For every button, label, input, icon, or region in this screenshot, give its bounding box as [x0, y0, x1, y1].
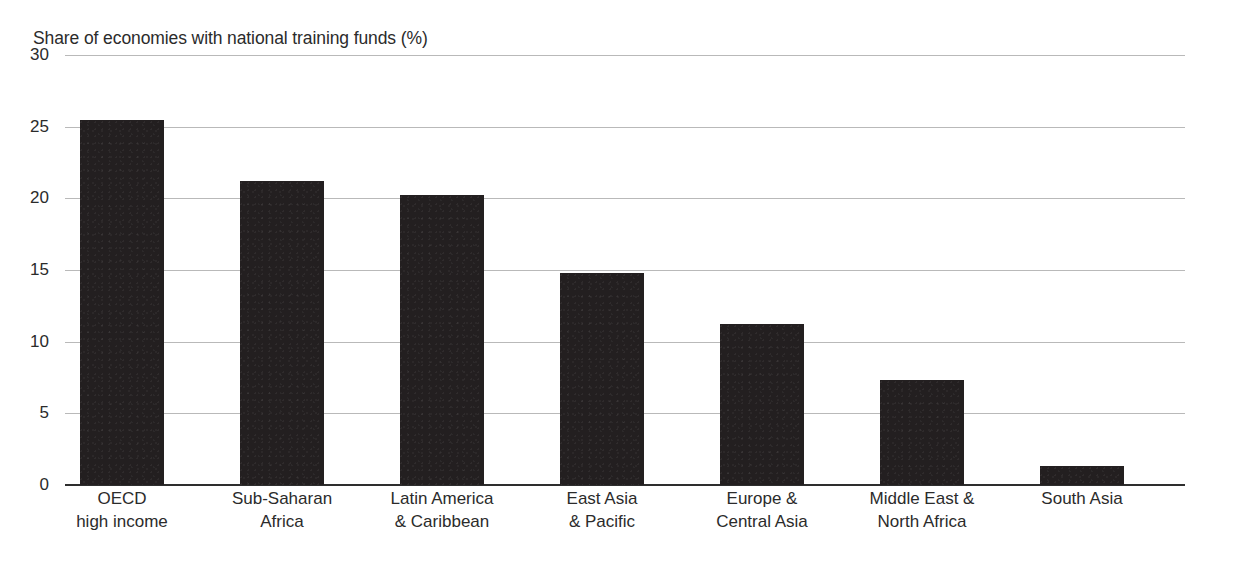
- bar: [560, 273, 644, 485]
- bar: [80, 120, 164, 486]
- x-tick-label: South Asia: [982, 487, 1182, 510]
- x-tick-label-line1: Sub-Saharan: [232, 489, 332, 508]
- gridline: [65, 198, 1185, 199]
- y-axis: 051015202530: [0, 55, 57, 485]
- bar: [240, 181, 324, 485]
- x-tick-label-line1: East Asia: [567, 489, 638, 508]
- y-tick-label: 20: [30, 189, 49, 206]
- gridline: [65, 127, 1185, 128]
- x-tick-label-line2: North Africa: [822, 510, 1022, 533]
- bar: [880, 380, 964, 485]
- y-tick-label: 30: [30, 46, 49, 63]
- chart-figure: Share of economies with national trainin…: [0, 0, 1238, 577]
- x-tick-label-line1: Middle East &: [870, 489, 975, 508]
- y-tick-label: 10: [30, 333, 49, 350]
- y-tick-label: 5: [40, 404, 49, 421]
- x-tick-label-line1: Europe &: [727, 489, 798, 508]
- y-tick-label: 25: [30, 118, 49, 135]
- bar: [400, 195, 484, 485]
- bar: [720, 324, 804, 485]
- bar: [1040, 466, 1124, 485]
- gridline: [65, 270, 1185, 271]
- x-tick-label-line1: South Asia: [1041, 489, 1122, 508]
- chart-title: Share of economies with national trainin…: [33, 28, 428, 48]
- plot-area: [65, 55, 1185, 485]
- gridline: [65, 55, 1185, 56]
- x-tick-label-line1: Latin America: [391, 489, 494, 508]
- x-axis: OECDhigh incomeSub-SaharanAfricaLatin Am…: [65, 487, 1185, 549]
- y-tick-label: 15: [30, 261, 49, 278]
- x-tick-label-line1: OECD: [97, 489, 146, 508]
